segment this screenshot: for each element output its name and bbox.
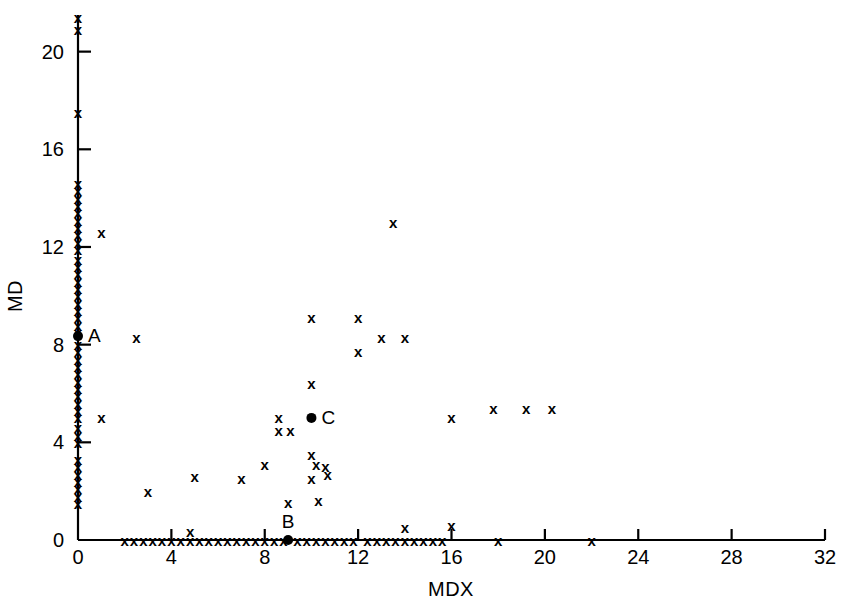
data-point-marker: x	[270, 532, 279, 549]
data-point-marker: x	[410, 532, 419, 549]
data-point-marker: x	[177, 532, 186, 549]
y-axis-ticks: 048121620	[42, 41, 91, 551]
data-point-marker: x	[382, 532, 391, 549]
data-point-marker: x	[130, 532, 139, 549]
data-point-marker: x	[149, 532, 158, 549]
data-point-marker: x	[191, 468, 200, 485]
y-tick-label: 8	[53, 334, 64, 356]
data-point-marker: x	[286, 422, 295, 439]
data-point-marker: x	[261, 456, 270, 473]
data-point-marker: x	[144, 483, 153, 500]
x-tick-label: 4	[166, 546, 177, 568]
data-point-marker: x	[354, 343, 363, 360]
data-point-marker: x	[307, 446, 316, 463]
y-tick-label: 12	[42, 236, 64, 258]
data-point-marker: x	[251, 532, 260, 549]
x-axis-title: MDX	[428, 578, 474, 600]
data-point-marker: x	[167, 532, 176, 549]
data-point-marker: x	[389, 214, 398, 231]
data-point-marker: x	[97, 224, 106, 241]
data-point-marker: x	[284, 494, 293, 511]
y-tick-label: 20	[42, 41, 64, 63]
scatter-plot-figure: 048121620242832 048121620 xxxxxxxxxxxxxx…	[0, 0, 851, 609]
data-point-marker: x	[74, 104, 83, 121]
x-tick-label: 20	[534, 546, 556, 568]
annotated-point-dot-b	[283, 535, 293, 545]
data-point-marker: x	[186, 523, 195, 540]
data-point-marker: x	[438, 532, 447, 549]
data-point-marker: x	[373, 532, 382, 549]
data-point-marker: x	[74, 495, 83, 512]
data-point-marker: x	[312, 532, 321, 549]
data-point-marker: x	[303, 532, 312, 549]
data-point-marker: x	[158, 532, 167, 549]
data-point-marker: x	[321, 532, 330, 549]
data-point-marker: x	[307, 309, 316, 326]
x-tick-label: 28	[721, 546, 743, 568]
x-tick-label: 8	[259, 546, 270, 568]
x-tick-label: 16	[440, 546, 462, 568]
data-point-marker: x	[97, 409, 106, 426]
y-tick-label: 16	[42, 138, 64, 160]
data-point-marker: x	[391, 532, 400, 549]
annotated-point-label-a: A	[88, 325, 101, 346]
annotated-point-label-c: C	[321, 407, 335, 428]
data-point-marker: x	[74, 21, 83, 38]
data-point-marker: x	[132, 329, 141, 346]
annotated-point-dot-c	[306, 413, 316, 423]
data-point-marker: x	[429, 532, 438, 549]
data-point-markers: xxxxxxxxxxxxxxxxxxxxxxxxxxxxxxxxxxxxxxxx…	[74, 9, 597, 549]
data-point-marker: x	[293, 532, 302, 549]
annotated-point-label-b: B	[282, 511, 295, 532]
data-point-marker: x	[349, 532, 358, 549]
data-point-marker: x	[139, 532, 148, 549]
data-point-marker: x	[548, 400, 557, 417]
data-point-marker: x	[205, 532, 214, 549]
data-point-marker: x	[331, 532, 340, 549]
x-tick-label: 12	[347, 546, 369, 568]
data-point-marker: x	[307, 375, 316, 392]
data-point-marker: x	[307, 470, 316, 487]
data-point-marker: x	[377, 329, 386, 346]
data-point-marker: x	[363, 532, 372, 549]
data-point-marker: x	[354, 309, 363, 326]
data-point-marker: x	[314, 492, 323, 509]
data-point-marker: x	[261, 532, 270, 549]
annotated-point-dot-a	[73, 331, 83, 341]
data-point-marker: x	[242, 532, 251, 549]
data-point-marker: x	[121, 532, 130, 549]
x-tick-label: 24	[627, 546, 649, 568]
y-tick-label: 0	[53, 529, 64, 551]
data-point-marker: x	[237, 470, 246, 487]
data-point-marker: x	[214, 532, 223, 549]
y-axis-title: MD	[4, 280, 26, 312]
data-point-marker: x	[324, 466, 333, 483]
axes-group	[78, 15, 825, 540]
data-point-marker: x	[522, 400, 531, 417]
data-point-marker: x	[447, 517, 456, 534]
x-tick-label: 0	[72, 546, 83, 568]
y-tick-label: 4	[53, 431, 64, 453]
data-point-marker: x	[340, 532, 349, 549]
data-point-marker: x	[447, 409, 456, 426]
data-point-marker: x	[494, 532, 503, 549]
data-point-marker: x	[223, 532, 232, 549]
data-point-marker: x	[275, 409, 284, 426]
data-point-marker: x	[587, 532, 596, 549]
x-tick-label: 32	[814, 546, 836, 568]
data-point-marker: x	[233, 532, 242, 549]
data-point-marker: x	[74, 434, 83, 451]
data-point-marker: x	[401, 329, 410, 346]
data-point-marker: x	[489, 400, 498, 417]
annotated-points-group: ABC	[73, 325, 335, 545]
data-point-marker: x	[419, 532, 428, 549]
data-point-marker: x	[195, 532, 204, 549]
data-point-marker: x	[401, 519, 410, 536]
chart-canvas: 048121620242832 048121620 xxxxxxxxxxxxxx…	[0, 0, 851, 609]
